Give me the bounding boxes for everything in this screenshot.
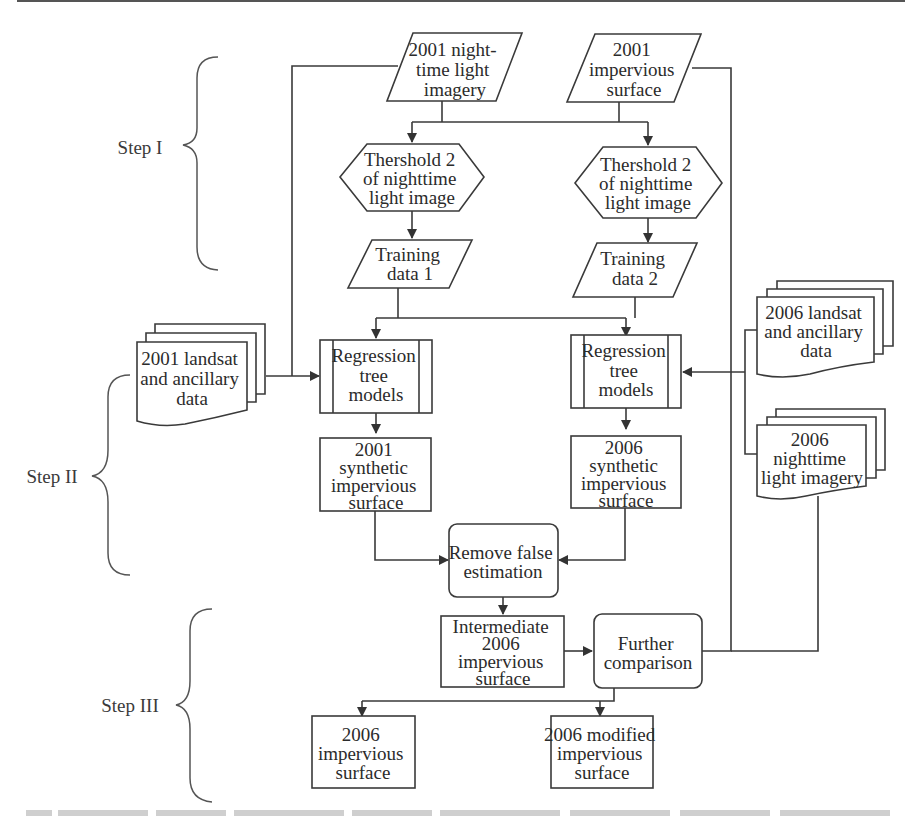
- node-threshold-1: Thershold 2 of nighttime light image: [340, 144, 484, 211]
- edge-nightlight2001-loop: [292, 66, 398, 376]
- node-2006-modified-impervious-surface: 2006 modified impervious surface: [544, 716, 660, 788]
- step-2-group: Step II: [26, 375, 130, 575]
- step-1-brace: [183, 57, 218, 270]
- edge-synthetic2006-remove: [559, 508, 625, 560]
- step-3-brace: [176, 609, 212, 802]
- node-regression-tree-models-2: Regression tree models: [571, 335, 681, 408]
- edge-nightlight2006-further: [731, 496, 818, 651]
- flowchart: Step I Step II Step III: [0, 0, 921, 816]
- step-3-group: Step III: [101, 609, 212, 802]
- step-1-label: Step I: [118, 137, 163, 158]
- node-training-data-2: Training data 2: [573, 243, 697, 297]
- node-2006-synthetic-impervious-surface: 2006 synthetic impervious surface: [571, 436, 681, 511]
- step-3-label: Step III: [101, 695, 159, 716]
- node-2001-impervious-surface: 2001 impervious surface: [567, 34, 701, 102]
- svg-text:Thershold 2 of nighttime: Thershold 2 of nighttime light image: [599, 154, 697, 213]
- svg-text:Thershold 2 of nighttime: Thershold 2 of nighttime light image: [363, 149, 461, 208]
- edge-synthetic2001-remove: [375, 511, 448, 560]
- edge-further-split: [362, 688, 614, 701]
- node-remove-false-estimation: Remove false estimation: [449, 524, 558, 597]
- node-2001-nighttime-light-imagery: 2001 night- time light imagery: [387, 33, 522, 101]
- step-2-label: Step II: [26, 466, 77, 487]
- node-further-comparison: Further comparison: [594, 614, 702, 688]
- node-intermediate-2006-impervious-surface: Intermediate 2006 impervious surface: [441, 616, 564, 689]
- figure-caption-cutoff: [26, 810, 890, 816]
- node-2006-impervious-surface: 2006 impervious surface: [312, 716, 415, 788]
- node-threshold-2: Thershold 2 of nighttime light image: [575, 147, 722, 218]
- node-2006-nighttime-light-imagery: 2006 nighttime light imagery: [757, 409, 885, 499]
- node-training-data-1: Training data 1: [348, 240, 472, 288]
- node-regression-tree-models-1: Regression tree models: [320, 340, 432, 413]
- node-2006-landsat-ancillary-data: 2006 landsat and ancillary data: [757, 281, 893, 377]
- node-2001-synthetic-impervious-surface: 2001 synthetic impervious surface: [320, 438, 431, 513]
- node-2001-landsat-ancillary-data: 2001 landsat and ancillary data: [137, 324, 265, 425]
- step-2-brace: [92, 375, 130, 575]
- svg-text:Remove false estimation: Remove false estimation: [449, 542, 558, 582]
- edge-2006-inputs-bracket: [745, 330, 757, 454]
- step-1-group: Step I: [118, 57, 218, 270]
